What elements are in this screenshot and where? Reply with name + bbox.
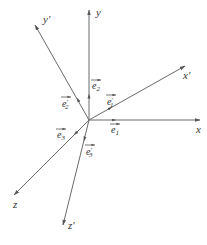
e3-prime-label: e′3 [85,145,95,159]
svg-text:e1: e1 [111,124,119,137]
e3-arrow [74,125,84,135]
axes [14,10,200,225]
x-axis-label: x [195,123,201,135]
svg-text:e2: e2 [92,80,100,93]
y-prime-axis-label: y' [42,13,51,25]
axis-labels: x y z x' y' z' [12,6,201,231]
z-axis-label: z [12,198,18,210]
e1-prime-label: e′1 [106,95,116,109]
coordinate-rotation-diagram: x y z x' y' z' e1 e2 e3 e′1 e′2 e′3 [0,0,207,245]
e1-label: e1 [110,124,120,137]
e2-label: e2 [91,80,101,93]
z-prime-axis-label: z' [67,219,75,231]
e2-prime-arrow [77,98,84,111]
e3-prime-arrow [84,128,87,141]
x-prime-axis-label: x' [182,69,191,81]
y-axis-label: y [95,6,101,18]
svg-text:e′2: e′2 [62,98,69,111]
svg-text:e′1: e′1 [107,96,113,109]
svg-text:e3: e3 [57,129,65,142]
svg-text:e′3: e′3 [86,146,93,159]
e2-prime-label: e′2 [61,97,71,111]
e3-label: e3 [56,129,66,142]
